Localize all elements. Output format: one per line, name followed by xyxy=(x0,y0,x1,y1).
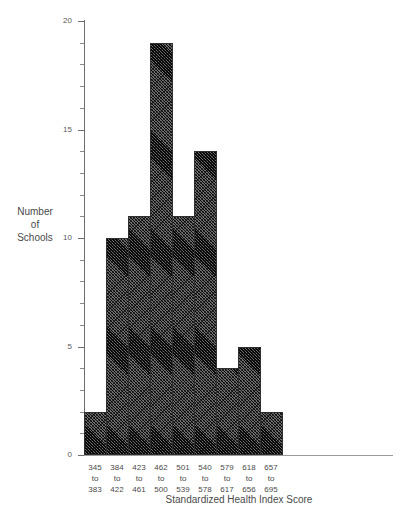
x-axis-tick-label-group: 618to656 xyxy=(238,462,260,495)
histogram-bar xyxy=(216,368,239,455)
x-axis-tick-label-line: 579 xyxy=(216,462,238,473)
x-axis-tick-label-group: 501to539 xyxy=(172,462,194,495)
x-axis-tick-label-group: 345to383 xyxy=(84,462,106,495)
x-axis-tick-label-line: to xyxy=(238,473,260,484)
x-axis-title: Standardized Health Index Score xyxy=(84,494,394,506)
y-axis-tick-label: 5 xyxy=(48,343,72,351)
x-axis-tick-label-line: to xyxy=(216,473,238,484)
x-axis-tick-label-line: 384 xyxy=(106,462,128,473)
histogram-figure: 05101520 Number of Schools 345to383384to… xyxy=(0,0,405,508)
histogram-bar xyxy=(172,216,195,455)
x-axis-tick-label-group: 540to578 xyxy=(194,462,216,495)
histogram-bar xyxy=(260,412,283,455)
histogram-bars xyxy=(84,21,394,455)
x-axis-tick-label-line: to xyxy=(194,473,216,484)
cut-off-header-text xyxy=(30,0,250,5)
x-axis-tick-label-group: 579to617 xyxy=(216,462,238,495)
x-axis-tick-label-line: 618 xyxy=(238,462,260,473)
histogram-bar xyxy=(238,347,261,456)
histogram-bar xyxy=(128,216,151,455)
x-axis-tick-label-group: 462to500 xyxy=(150,462,172,495)
histogram-bar xyxy=(150,43,173,455)
y-axis-title-line-1: Number xyxy=(4,205,66,218)
x-axis-tick-label-line: 540 xyxy=(194,462,216,473)
x-axis-tick-label-line: 462 xyxy=(150,462,172,473)
y-axis-tick-label: 15 xyxy=(48,126,72,134)
x-axis-tick-label-line: to xyxy=(260,473,282,484)
x-axis-tick-label-line: to xyxy=(128,473,150,484)
y-axis-tick-label-text: 20 xyxy=(50,17,72,25)
x-axis-tick-label-line: to xyxy=(84,473,106,484)
x-axis-tick-label-group: 657to695 xyxy=(260,462,282,495)
x-axis-tick-label-group: 423to461 xyxy=(128,462,150,495)
x-axis-tick-label-line: 501 xyxy=(172,462,194,473)
x-axis-tick-label-line: to xyxy=(150,473,172,484)
y-axis-major-tick xyxy=(78,455,84,456)
x-axis-tick-label-line: 657 xyxy=(260,462,282,473)
x-axis-tick-label-line: 423 xyxy=(128,462,150,473)
y-axis-tick-label-text: 0 xyxy=(50,451,72,459)
x-axis-line xyxy=(84,455,393,456)
histogram-bar xyxy=(84,412,107,455)
y-axis-tick-label: 0 xyxy=(48,451,72,459)
y-axis-title-line-2: of xyxy=(4,218,66,231)
x-axis-tick-label-line: to xyxy=(172,473,194,484)
x-axis-tick-label-line: 345 xyxy=(84,462,106,473)
x-axis-tick-label-group: 384to422 xyxy=(106,462,128,495)
y-axis-title-line-3: Schools xyxy=(4,231,66,244)
y-axis-tick-label-text: 15 xyxy=(50,126,72,134)
y-axis-tick-label: 20 xyxy=(48,17,72,25)
y-axis-tick-label-text: 5 xyxy=(50,343,72,351)
y-axis-title: Number of Schools xyxy=(4,205,66,244)
histogram-bar xyxy=(106,238,129,455)
x-axis-tick-label-line: to xyxy=(106,473,128,484)
histogram-bar xyxy=(194,151,217,455)
